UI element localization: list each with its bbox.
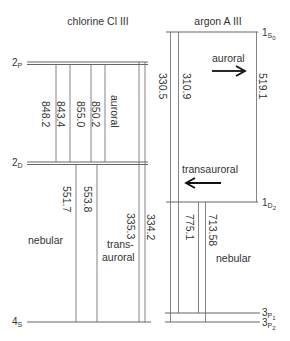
argon-level-1s0-label: 1S0 (262, 27, 276, 41)
chlorine-wavelength-553: 553.8 (82, 186, 94, 212)
chlorine-wavelength-855: 855.0 (75, 101, 87, 127)
argon-title: argon A III (194, 15, 241, 27)
argon-wavelength-519: 519.1 (257, 73, 269, 99)
argon-wavelength-310: 310.9 (181, 73, 193, 99)
chlorine-level-2d-label: 2D (12, 157, 23, 169)
chlorine-wavelength-850: 850.2 (90, 101, 102, 127)
chlorine-wavelength-551: 551.7 (61, 186, 73, 212)
chlorine-transauroral-lines (139, 62, 145, 322)
chlorine-wavelength-848: 848.2 (40, 101, 52, 127)
chlorine-nebular-label: nebular (28, 234, 64, 246)
argon-auroral-label: auroral (212, 52, 245, 64)
chlorine-level-4s-label: 4S (12, 316, 23, 328)
chlorine-wavelength-843: 843.4 (55, 101, 67, 127)
chlorine-level-2p-label: 2P (12, 57, 23, 69)
chlorine-title: chlorine Cl III (67, 15, 128, 27)
argon-wavelength-775: 775.1 (184, 214, 196, 240)
left-arrow-icon (186, 178, 221, 188)
argon-wavelength-330: 330.5 (157, 73, 169, 99)
argon-transauroral-label: transauroral (182, 163, 238, 175)
chlorine-auroral2-label: auroral (102, 251, 135, 263)
argon-nebular-label: nebular (216, 252, 252, 264)
chlorine-wavelength-335: 335.3 (125, 213, 137, 239)
argon-wavelength-713: 713.58 (207, 214, 219, 246)
energy-level-diagram: chlorine Cl III 2P 2D 4S 848.2 843.4 855… (0, 0, 290, 341)
argon-level-1d2-label: 1D2 (262, 197, 277, 211)
chlorine-trans-label: trans- (107, 238, 134, 250)
right-arrow-icon (212, 66, 245, 76)
chlorine-auroral-label: auroral (109, 95, 121, 128)
chlorine-wavelength-334: 334.2 (145, 214, 157, 240)
chlorine-level-2d (27, 162, 148, 165)
chlorine-level-2p (27, 62, 148, 65)
